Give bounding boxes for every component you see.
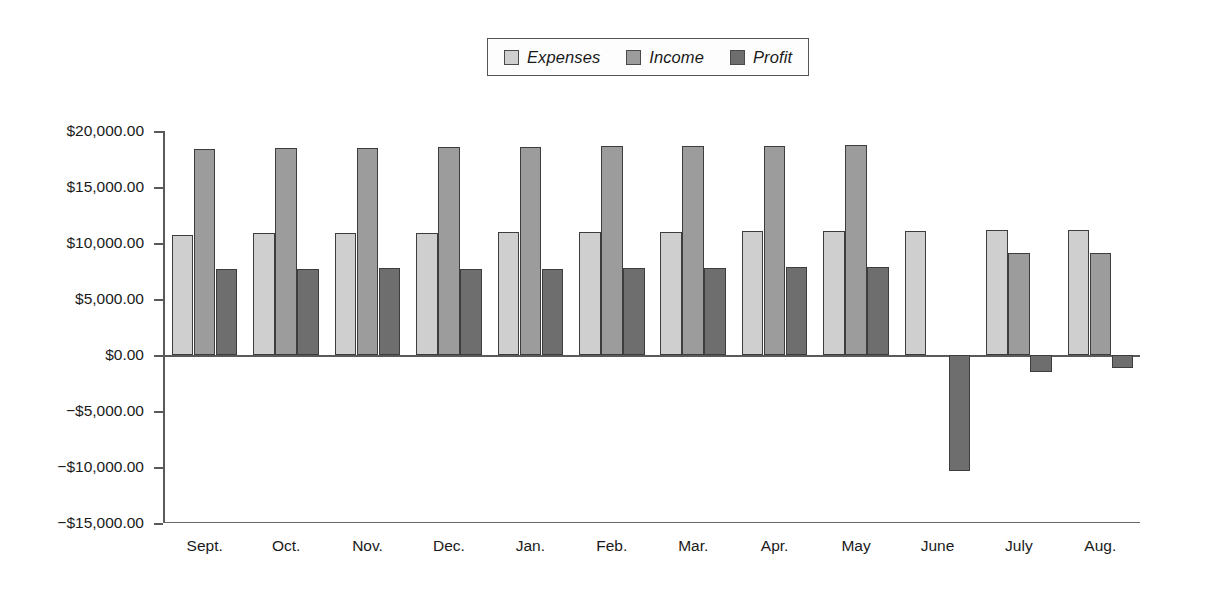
- y-axis-tick-label: $10,000.00: [0, 234, 144, 252]
- bar-profit-feb: [623, 268, 645, 355]
- x-axis-label: Dec.: [433, 537, 465, 555]
- bar-profit-sept: [216, 269, 238, 355]
- y-axis-tick-mark: [154, 523, 163, 525]
- y-axis-line: [163, 131, 165, 523]
- y-axis-tick-label: $15,000.00: [0, 178, 144, 196]
- legend-label-expenses: Expenses: [527, 48, 600, 67]
- y-axis-tick-mark: [154, 131, 163, 133]
- bar-expenses-oct: [253, 233, 275, 355]
- x-axis-label: Aug.: [1084, 537, 1116, 555]
- bar-income-aug: [1090, 253, 1112, 355]
- x-axis-label: Nov.: [352, 537, 383, 555]
- bar-profit-mar: [704, 268, 726, 355]
- bar-income-may: [845, 145, 867, 355]
- bar-expenses-mar: [660, 232, 682, 355]
- y-axis-tick-mark: [154, 411, 163, 413]
- y-axis-tick-label: $0.00: [0, 346, 144, 364]
- x-axis-label: Jan.: [516, 537, 545, 555]
- y-axis-tick-mark: [154, 243, 163, 245]
- legend-swatch-profit: [730, 50, 745, 65]
- legend-swatch-income: [626, 50, 641, 65]
- bar-expenses-july: [986, 230, 1008, 355]
- zero-baseline: [163, 355, 1140, 357]
- y-axis-tick-mark: [154, 467, 163, 469]
- bar-profit-may: [867, 267, 889, 355]
- legend-entry-expenses: Expenses: [504, 48, 600, 67]
- bar-chart: ExpensesIncomeProfit $20,000.00$15,000.0…: [0, 0, 1220, 601]
- legend-label-profit: Profit: [753, 48, 792, 67]
- x-axis-label: July: [1005, 537, 1033, 555]
- legend-entry-income: Income: [626, 48, 704, 67]
- bar-profit-jan: [542, 269, 564, 355]
- x-axis-line: [163, 522, 1140, 524]
- bar-expenses-dec: [416, 233, 438, 355]
- x-axis-label: Mar.: [678, 537, 708, 555]
- y-axis-tick-label: −$10,000.00: [0, 458, 144, 476]
- legend-label-income: Income: [649, 48, 704, 67]
- legend-entry-profit: Profit: [730, 48, 792, 67]
- bar-expenses-apr: [742, 231, 764, 355]
- bar-income-feb: [601, 146, 623, 355]
- bar-income-sept: [194, 149, 216, 355]
- plot-area: [163, 131, 1140, 523]
- x-axis-label: Feb.: [596, 537, 627, 555]
- y-axis-tick-mark: [154, 187, 163, 189]
- bar-profit-oct: [297, 269, 319, 355]
- y-axis-tick-label: $20,000.00: [0, 122, 144, 140]
- bar-income-apr: [764, 146, 786, 355]
- bar-profit-aug: [1112, 355, 1134, 368]
- bar-income-july: [1008, 253, 1030, 355]
- bar-expenses-feb: [579, 232, 601, 355]
- bar-profit-july: [1030, 355, 1052, 372]
- bar-expenses-aug: [1068, 230, 1090, 355]
- bar-expenses-sept: [172, 235, 194, 355]
- bar-profit-june: [949, 355, 971, 471]
- x-axis-label: June: [921, 537, 955, 555]
- bar-income-mar: [682, 146, 704, 355]
- y-axis-tick-label: $5,000.00: [0, 290, 144, 308]
- x-axis-label: Sept.: [187, 537, 223, 555]
- bar-expenses-may: [823, 231, 845, 355]
- x-axis-label: Apr.: [761, 537, 789, 555]
- x-axis-label: Oct.: [272, 537, 300, 555]
- bar-income-oct: [275, 148, 297, 355]
- bar-income-jan: [520, 147, 542, 355]
- chart-legend: ExpensesIncomeProfit: [487, 38, 809, 76]
- bar-expenses-nov: [335, 233, 357, 355]
- y-axis-tick-label: −$5,000.00: [0, 402, 144, 420]
- legend-swatch-expenses: [504, 50, 519, 65]
- y-axis-tick-mark: [154, 355, 163, 357]
- bar-income-nov: [357, 148, 379, 355]
- bar-profit-dec: [460, 269, 482, 355]
- y-axis-tick-label: −$15,000.00: [0, 514, 144, 532]
- bar-profit-nov: [379, 268, 401, 355]
- bar-profit-apr: [786, 267, 808, 355]
- bar-expenses-june: [905, 231, 927, 355]
- x-axis-label: May: [841, 537, 870, 555]
- bar-income-dec: [438, 147, 460, 355]
- bar-expenses-jan: [498, 232, 520, 355]
- y-axis-tick-mark: [154, 299, 163, 301]
